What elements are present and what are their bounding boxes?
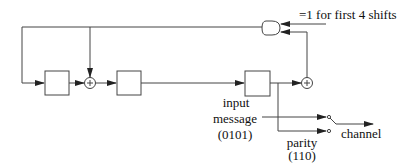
and-gate [262, 21, 280, 35]
input-label: input [208, 96, 264, 110]
feedback-line [22, 27, 262, 83]
parity-bits-label: (110) [280, 149, 324, 163]
message-bits-label: (0101) [200, 128, 270, 142]
xor-gate-1 [85, 78, 96, 89]
switch-contact-parity [327, 129, 330, 132]
encoder-diagram: =1 for first 4 shifts input message (010… [0, 0, 411, 166]
channel-label: channel [341, 127, 381, 141]
output-switch [330, 118, 373, 124]
and-condition-label: =1 for first 4 shifts [299, 8, 397, 22]
xor-gate-2 [302, 78, 313, 89]
message-label: message [200, 112, 270, 126]
shift-register-2 [117, 71, 141, 95]
shift-register-3 [245, 71, 270, 96]
shift-register-1 [45, 71, 69, 95]
